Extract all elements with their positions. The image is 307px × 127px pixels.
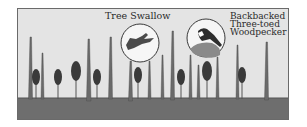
tree bbox=[177, 69, 185, 99]
ground bbox=[18, 98, 289, 120]
tree bbox=[93, 69, 101, 99]
tree bbox=[54, 69, 62, 99]
tree bbox=[32, 69, 40, 99]
tree-swallow-icon bbox=[121, 24, 159, 62]
woodpecker-icon bbox=[187, 19, 225, 58]
tree bbox=[134, 67, 142, 99]
burned-forest-illustration: Tree Swallow Backbacked Three-toed Woodp… bbox=[17, 8, 289, 120]
tree bbox=[238, 67, 246, 99]
tree bbox=[202, 61, 212, 99]
woodpecker-label-line3: Woodpecker bbox=[230, 28, 286, 36]
live-trees bbox=[32, 61, 246, 99]
woodpecker-label: Backbacked Three-toed Woodpecker bbox=[230, 12, 286, 36]
tree bbox=[71, 61, 81, 99]
tree-swallow-label: Tree Swallow bbox=[105, 12, 170, 20]
